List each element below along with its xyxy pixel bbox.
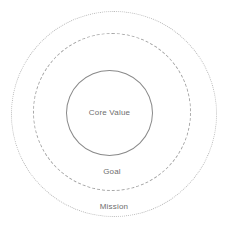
mission-label: Mission bbox=[11, 202, 217, 212]
goal-label: Goal bbox=[33, 167, 191, 177]
core-value-label: Core Value bbox=[66, 108, 153, 118]
concentric-circles-diagram: Core Value Goal Mission bbox=[0, 0, 227, 233]
